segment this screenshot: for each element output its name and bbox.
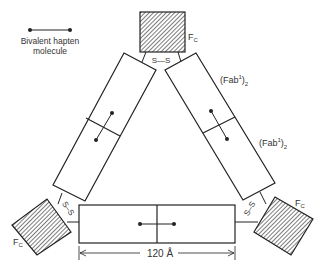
antibody-triangle-diagram: Bivalent hapten molecule FC S—S (Fab1)2 … — [0, 0, 328, 272]
svg-text:S–S: S–S — [242, 200, 257, 218]
fab-label-upper: (Fab1)2 — [220, 74, 249, 87]
dimension-label: 120 Å — [147, 247, 173, 259]
legend-label-line2: molecule — [33, 46, 67, 56]
fc-label-top: FC — [188, 32, 199, 43]
fc-label-left: FC — [13, 237, 24, 248]
legend-label-line1: Bivalent hapten — [21, 36, 80, 46]
fc-label-right: FC — [295, 198, 306, 209]
fc-fragment-top — [140, 12, 185, 52]
disulfide-link-top: S—S — [142, 52, 181, 65]
fab-arm-bottom — [79, 205, 235, 243]
svg-text:S–S: S–S — [60, 200, 76, 218]
svg-text:S—S: S—S — [152, 56, 171, 65]
legend-hapten-icon — [28, 28, 72, 32]
fab-arm-left — [53, 53, 156, 201]
fab-label-lower: (Fab1)2 — [259, 137, 288, 150]
